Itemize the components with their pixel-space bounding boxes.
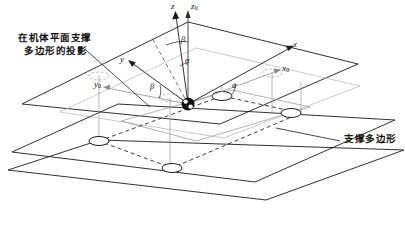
angle-label-beta-z: β bbox=[181, 35, 185, 45]
angle-label-beta-y: β bbox=[150, 82, 154, 92]
axis-label-x: x bbox=[293, 39, 297, 49]
diagram-canvas: 在机体平面支撑 多边形的投影 支撑多边形 z z0 x x0 y y0 β α … bbox=[0, 0, 405, 225]
axis-label-z0: z0 bbox=[191, 1, 198, 11]
left-annotation-line2: 多边形的投影 bbox=[24, 46, 87, 57]
axis-y0-line bbox=[107, 88, 188, 104]
axis-label-x0: x0 bbox=[282, 63, 289, 73]
axis-x-line bbox=[188, 48, 290, 104]
right-annotation: 支撑多边形 bbox=[344, 134, 397, 145]
angle-arcs bbox=[159, 41, 235, 98]
axis-label-z: z bbox=[171, 1, 175, 11]
left-annotation-line1: 在机体平面支撑 bbox=[18, 33, 92, 44]
world-frame-axes bbox=[103, 10, 281, 104]
arc-beta-y bbox=[159, 85, 161, 98]
ground-plane bbox=[8, 140, 404, 200]
tilt-reference-line bbox=[152, 38, 188, 104]
world-reference-plane bbox=[60, 48, 360, 138]
angle-label-alpha-z: α bbox=[185, 56, 189, 66]
support-polygon bbox=[99, 96, 301, 168]
axis-label-y0: y0 bbox=[94, 79, 101, 89]
origin-marker bbox=[182, 98, 195, 111]
leader-right-label bbox=[276, 128, 340, 141]
angle-label-alpha-x: α bbox=[232, 81, 236, 91]
axis-label-y: y bbox=[120, 54, 124, 64]
foot-contact-markers bbox=[89, 92, 301, 173]
